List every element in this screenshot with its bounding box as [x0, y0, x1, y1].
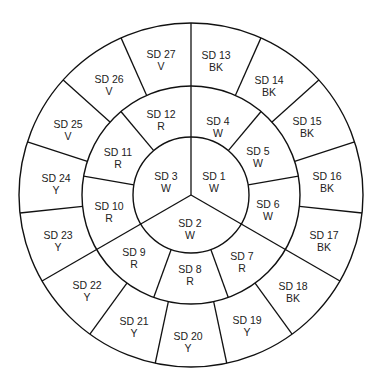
segment-label-sd3: SD 3 W: [154, 170, 177, 194]
segment-id: SD 7: [230, 250, 253, 262]
segment-id: SD 4: [206, 115, 229, 127]
segment-id: SD 27: [146, 48, 175, 60]
segment-label-sd27: SD 27 V: [146, 48, 175, 72]
segment-label-sd25: SD 25 V: [53, 118, 82, 142]
segment-code: BK: [309, 241, 338, 253]
segment-code: V: [53, 130, 82, 142]
segment-code: R: [230, 262, 253, 274]
segment-code: BK: [201, 61, 230, 73]
segment-label-sd13: SD 13 BK: [201, 49, 230, 73]
outer-divider: [155, 302, 168, 364]
outer-divider: [214, 302, 227, 364]
segment-id: SD 8: [178, 263, 201, 275]
segment-id: SD 25: [53, 118, 82, 130]
segment-label-sd11: SD 11 R: [104, 146, 132, 170]
segment-code: Y: [173, 342, 202, 354]
segment-id: SD 20: [173, 330, 202, 342]
segment-code: W: [202, 182, 225, 194]
outer-divider: [121, 38, 147, 96]
segment-id: SD 2: [178, 217, 201, 229]
segment-code: Y: [43, 241, 72, 253]
segment-label-sd5: SD 5 W: [246, 145, 269, 169]
segment-code: Y: [119, 327, 148, 339]
segment-code: BK: [254, 86, 283, 98]
segment-code: W: [246, 157, 269, 169]
segment-id: SD 1: [202, 170, 225, 182]
segment-id: SD 14: [254, 74, 283, 86]
segment-label-sd17: SD 17 BK: [309, 229, 338, 253]
segment-code: R: [146, 120, 175, 132]
outer-divider: [20, 206, 83, 213]
segment-id: SD 6: [256, 198, 279, 210]
segment-id: SD 3: [154, 170, 177, 182]
middle-divider: [241, 224, 285, 250]
outer-divider: [295, 142, 355, 161]
segment-code: BK: [292, 127, 321, 139]
segment-code: W: [178, 229, 201, 241]
middle-divider: [211, 250, 228, 298]
segment-label-sd15: SD 15 BK: [292, 115, 321, 139]
segment-code: W: [256, 210, 279, 222]
segment-label-sd9: SD 9 R: [122, 246, 145, 270]
segment-code: R: [104, 158, 132, 170]
segment-label-sd18: SD 18 BK: [278, 280, 307, 304]
segment-code: BK: [312, 182, 341, 194]
segment-id: SD 9: [122, 246, 145, 258]
segment-code: V: [94, 85, 123, 97]
segment-label-sd16: SD 16 BK: [312, 170, 341, 194]
segment-label-sd23: SD 23 Y: [43, 229, 72, 253]
segment-code: Y: [72, 291, 101, 303]
segment-label-sd1: SD 1 W: [202, 170, 225, 194]
segment-code: W: [154, 182, 177, 194]
segment-label-sd24: SD 24 Y: [41, 172, 70, 196]
segment-dividers: [20, 23, 362, 363]
segment-label-sd8: SD 8 R: [178, 263, 201, 287]
segment-label-sd19: SD 19 Y: [232, 314, 261, 338]
segment-code: Y: [41, 184, 70, 196]
segment-label-sd6: SD 6 W: [256, 198, 279, 222]
segment-id: SD 26: [94, 73, 123, 85]
segment-label-sd7: SD 7 R: [230, 250, 253, 274]
segment-id: SD 5: [246, 145, 269, 157]
segment-id: SD 23: [43, 229, 72, 241]
segment-id: SD 16: [312, 170, 341, 182]
segment-label-sd26: SD 26 V: [94, 73, 123, 97]
segment-id: SD 19: [232, 314, 261, 326]
segment-label-sd20: SD 20 Y: [173, 330, 202, 354]
segment-label-sd4: SD 4 W: [206, 115, 229, 139]
segment-label-sd12: SD 12 R: [146, 108, 175, 132]
segment-label-sd2: SD 2 W: [178, 217, 201, 241]
segment-code: W: [206, 127, 229, 139]
middle-divider: [154, 250, 171, 298]
segment-code: R: [178, 275, 201, 287]
segment-id: SD 22: [72, 279, 101, 291]
segment-label-sd10: SD 10 R: [94, 200, 123, 224]
segment-id: SD 15: [292, 115, 321, 127]
segment-id: SD 17: [309, 229, 338, 241]
middle-divider: [248, 176, 298, 185]
segment-label-sd21: SD 21 Y: [119, 315, 148, 339]
outer-divider: [299, 206, 362, 213]
segment-code: Y: [232, 326, 261, 338]
outer-divider: [42, 250, 97, 282]
segment-code: BK: [278, 292, 307, 304]
middle-divider: [84, 176, 134, 185]
segment-id: SD 10: [94, 200, 123, 212]
segment-id: SD 11: [104, 146, 132, 158]
segment-id: SD 12: [146, 108, 175, 120]
outer-divider: [285, 250, 340, 282]
segment-id: SD 21: [119, 315, 148, 327]
segment-id: SD 13: [201, 49, 230, 61]
segment-label-sd22: SD 22 Y: [72, 279, 101, 303]
segment-code: V: [146, 60, 175, 72]
segment-code: R: [122, 258, 145, 270]
segment-code: R: [94, 212, 123, 224]
segment-id: SD 18: [278, 280, 307, 292]
outer-divider: [27, 142, 87, 161]
segment-id: SD 24: [41, 172, 70, 184]
segment-label-sd14: SD 14 BK: [254, 74, 283, 98]
